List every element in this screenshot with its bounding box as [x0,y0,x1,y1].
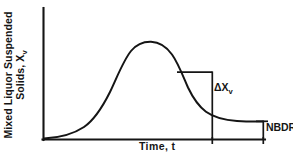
figure-container: Mixed Liquor Suspended Solids, Xv Time, … [0,0,293,160]
x-axis-label: Time, t [139,141,175,152]
delta-xv-label: ΔXv [214,82,233,96]
delta-xv-label-subscript: v [229,87,233,96]
y-axis-label-line2-subscript: v [20,50,29,54]
y-axis-label-line2-main: Solids, X [14,55,26,100]
delta-xv-label-main: ΔX [214,81,229,93]
y-axis-label-line2: Solids, Xv [14,2,29,148]
y-axis-label: Mixed Liquor Suspended Solids, Xv [2,2,29,148]
plot-canvas [0,0,293,160]
nbdr-label: NBDR [266,122,293,133]
y-axis-label-container: Mixed Liquor Suspended Solids, Xv [0,0,40,150]
y-axis-label-line1: Mixed Liquor Suspended [2,2,14,148]
